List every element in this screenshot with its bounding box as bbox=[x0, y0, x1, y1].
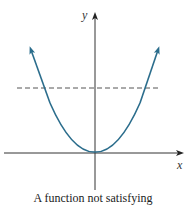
parabola-left-branch bbox=[31, 50, 50, 103]
x-axis-label: x bbox=[177, 158, 182, 173]
y-axis-label: y bbox=[82, 8, 87, 23]
diagram-canvas bbox=[0, 0, 192, 208]
figure-caption: A function not satisfying bbox=[0, 191, 186, 206]
parabola-right-branch bbox=[140, 50, 158, 103]
